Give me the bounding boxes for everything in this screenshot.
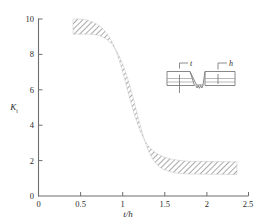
inset-notched-plate-diagram: t h <box>167 59 235 94</box>
x-ticklabel-1: 1 <box>121 199 125 209</box>
x-ticklabel-0: 0 <box>36 199 40 209</box>
inset-h-leader-line <box>218 63 227 70</box>
y-ticklabel-4: 4 <box>30 120 35 130</box>
figure-container: 10 8 6 4 2 0 0 0.5 1 1.5 2 2.5 t/h Kt <box>0 0 269 222</box>
y-axis-label-sub: t <box>16 108 18 114</box>
x-ticklabel-2: 2 <box>205 199 209 209</box>
inset-crack-root-icon <box>196 85 203 88</box>
inset-label-t: t <box>190 59 193 68</box>
inset-t-leader-line <box>180 63 189 69</box>
y-axis-label: Kt <box>9 102 18 114</box>
y-ticklabel-6: 6 <box>30 85 34 95</box>
x-tick-labels: 0 0.5 1 1.5 2 2.5 <box>36 199 253 209</box>
x-ticklabel-0.5: 0.5 <box>75 199 86 209</box>
scatter-band-area <box>73 19 237 175</box>
y-ticklabel-2: 2 <box>30 156 34 166</box>
y-ticklabel-0: 0 <box>30 191 34 201</box>
x-axis-label-den: h <box>128 209 133 219</box>
y-ticklabel-8: 8 <box>30 49 34 59</box>
x-ticklabel-1.5: 1.5 <box>159 199 170 209</box>
x-axis-label: t/h <box>123 209 133 219</box>
data-band-group <box>73 19 237 175</box>
y-ticklabel-10: 10 <box>26 14 35 24</box>
y-tick-labels: 10 8 6 4 2 0 <box>26 14 35 201</box>
chart-svg: 10 8 6 4 2 0 0 0.5 1 1.5 2 2.5 t/h Kt <box>0 0 269 222</box>
inset-label-h: h <box>229 59 233 68</box>
x-ticklabel-2.5: 2.5 <box>243 199 254 209</box>
